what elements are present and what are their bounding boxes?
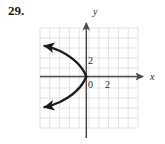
figure-container: 29.: [0, 0, 165, 144]
origin-label: 0: [88, 79, 93, 90]
x-tick-label-2: 2: [105, 79, 110, 90]
y-tick-label-2: 2: [88, 55, 93, 66]
x-axis-label: x: [149, 71, 155, 82]
coordinate-graph: y x 2 0 2: [0, 0, 165, 144]
y-axis-label: y: [92, 6, 98, 17]
grid-lines: [40, 28, 138, 128]
